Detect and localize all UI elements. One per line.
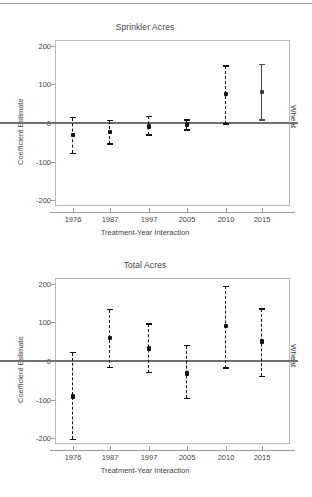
y-axis-title: Coefficient Estimate (16, 98, 25, 165)
y-axis-tick-label: 100 (18, 80, 51, 89)
error-bar-cap (70, 352, 76, 354)
error-bar-cap (259, 119, 265, 121)
panel-side-label: Wheat (289, 105, 298, 128)
point-estimate-marker (147, 346, 151, 350)
panel-side-label: Wheat (289, 344, 298, 367)
y-axis-tick-label: -100 (18, 396, 51, 405)
x-axis-tick (262, 208, 263, 212)
error-bar-cap (184, 129, 190, 131)
y-axis-tick-label: -100 (18, 158, 51, 167)
x-axis-line (50, 212, 295, 213)
error-bar-cap (107, 367, 113, 369)
y-axis-tick (51, 400, 55, 401)
error-bar-cap (146, 134, 152, 136)
error-bar-cap (107, 143, 113, 145)
point-estimate-marker (71, 394, 75, 398)
x-axis-tick-label: 1976 (53, 215, 93, 224)
x-axis-tick (226, 446, 227, 450)
x-axis-tick-label: 1997 (129, 215, 169, 224)
chart-title: Sprinkler Acres (0, 22, 290, 32)
point-estimate-marker (260, 339, 264, 343)
y-axis-tick (51, 284, 55, 285)
error-bar-cap (70, 439, 76, 441)
x-axis-tick-label: 2005 (167, 215, 207, 224)
y-axis-title: Coefficient Estimate (16, 336, 25, 403)
x-axis-tick (73, 446, 74, 450)
x-axis-tick (187, 208, 188, 212)
chart-title: Total Acres (0, 260, 290, 270)
y-axis-tick-label: 200 (18, 280, 51, 289)
y-axis-tick (51, 438, 55, 439)
x-axis-tick (262, 446, 263, 450)
x-axis-tick-label: 2015 (242, 215, 282, 224)
x-axis-tick (110, 446, 111, 450)
figure-root: Sprinkler Acres Wheat Treatment-Year Int… (0, 0, 312, 497)
error-bar-cap (259, 376, 265, 378)
error-bar-cap (259, 308, 265, 310)
y-axis-tick-label: -200 (18, 434, 51, 443)
error-bar-cap (223, 286, 229, 288)
error-bar-cap (107, 309, 113, 311)
error-bar-cap (146, 323, 152, 325)
y-axis-tick-label: 100 (18, 318, 51, 327)
point-estimate-marker (260, 90, 264, 94)
point-estimate-marker (224, 324, 228, 328)
x-axis-tick-label: 1997 (129, 453, 169, 462)
error-bar-cap (223, 65, 229, 67)
point-estimate-marker (185, 371, 189, 375)
y-axis-tick (51, 46, 55, 47)
error-bar-cap (184, 345, 190, 347)
x-axis-tick (149, 208, 150, 212)
error-bar-cap (70, 117, 76, 119)
point-estimate-marker (185, 122, 189, 126)
error-bar-cap (146, 116, 152, 118)
y-axis-tick (51, 322, 55, 323)
chart-panel-total-acres: Total Acres Wheat Treatment-Year Interac… (0, 249, 312, 497)
x-axis-tick-label: 1987 (90, 453, 130, 462)
x-axis-tick-label: 1987 (90, 215, 130, 224)
error-bar-cap (259, 64, 265, 66)
y-axis-tick (51, 84, 55, 85)
point-estimate-marker (71, 133, 75, 137)
y-axis-tick-label: -200 (18, 196, 51, 205)
error-bar-cap (223, 123, 229, 125)
y-axis-tick (51, 200, 55, 201)
x-axis-tick (110, 208, 111, 212)
point-estimate-marker (108, 130, 112, 134)
x-axis-tick-label: 2015 (242, 453, 282, 462)
error-bar-cap (184, 398, 190, 400)
x-axis-tick (226, 208, 227, 212)
error-bar-cap (184, 119, 190, 121)
point-estimate-marker (147, 124, 151, 128)
y-axis-tick-label: 200 (18, 42, 51, 51)
error-bar-cap (223, 367, 229, 369)
chart-panel-sprinkler-acres: Sprinkler Acres Wheat Treatment-Year Int… (0, 0, 312, 248)
error-bar-cap (107, 120, 113, 122)
x-axis-tick (73, 208, 74, 212)
x-axis-line (50, 450, 295, 451)
x-axis-tick-label: 2010 (206, 215, 246, 224)
x-axis-tick-label: 2005 (167, 453, 207, 462)
error-bar-cap (70, 153, 76, 155)
x-axis-tick (149, 446, 150, 450)
point-estimate-marker (224, 92, 228, 96)
x-axis-tick (187, 446, 188, 450)
x-axis-title: Treatment-Year Interaction (0, 466, 290, 475)
x-axis-tick-label: 2010 (206, 453, 246, 462)
point-estimate-marker (108, 336, 112, 340)
x-axis-tick-label: 1976 (53, 453, 93, 462)
x-axis-title: Treatment-Year Interaction (0, 228, 290, 237)
y-axis-tick (51, 162, 55, 163)
error-bar-cap (146, 372, 152, 374)
